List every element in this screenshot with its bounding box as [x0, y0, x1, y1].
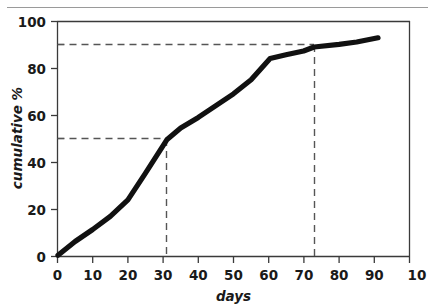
x-tick-label-20: 20 [119, 267, 138, 283]
x-axis-title: days [216, 288, 251, 304]
chart-background [0, 0, 434, 308]
y-tick-label-40: 40 [27, 155, 46, 171]
y-axis-title: cumulative % [9, 87, 25, 189]
x-tick-label-0: 0 [53, 267, 62, 283]
y-tick-label-0: 0 [37, 249, 46, 265]
x-tick-label-80: 80 [330, 267, 349, 283]
x-tick-label-40: 40 [189, 267, 208, 283]
x-tick-label-100: 10 [408, 267, 427, 283]
cumulative-percent-line-chart: 100 80 60 40 20 0 0 10 20 30 40 50 60 70… [0, 0, 434, 308]
y-tick-label-60: 60 [27, 108, 46, 124]
x-tick-label-50: 50 [224, 267, 243, 283]
x-tick-label-30: 30 [154, 267, 173, 283]
chart-figure: 100 80 60 40 20 0 0 10 20 30 40 50 60 70… [0, 0, 434, 308]
x-tick-label-60: 60 [259, 267, 278, 283]
x-tick-label-10: 10 [83, 267, 102, 283]
x-tick-label-70: 70 [295, 267, 314, 283]
y-tick-label-100: 100 [18, 14, 46, 30]
y-tick-label-20: 20 [27, 202, 46, 218]
y-tick-label-80: 80 [27, 61, 46, 77]
x-tick-label-90: 90 [365, 267, 384, 283]
